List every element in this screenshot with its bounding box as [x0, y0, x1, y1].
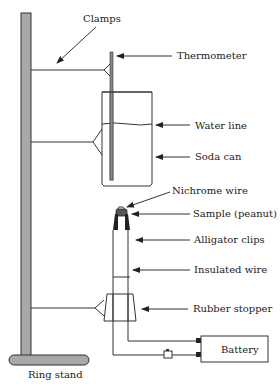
nichrome-wire-callout: Nichrome wire [127, 185, 248, 207]
thermometer-clamp [31, 64, 110, 76]
rubber-stopper-callout: Rubber stopper [142, 303, 273, 314]
water-line-label: Water line [195, 120, 247, 131]
alligator-clip-left [113, 214, 118, 230]
rubber-stopper [104, 294, 136, 321]
battery-label: Battery [221, 344, 259, 355]
insulated-wires [113, 230, 130, 355]
nichrome-wire-label: Nichrome wire [172, 185, 248, 196]
water-line [102, 123, 152, 125]
thermometer-label: Thermometer [177, 50, 247, 61]
battery-wiring [113, 338, 201, 358]
alligator-clips-label: Alligator clips [193, 234, 265, 245]
can-clamp [31, 129, 102, 155]
stopper-clamp [31, 300, 104, 316]
insulated-wire-label: Insulated wire [194, 264, 267, 275]
soda-can-label: Soda can [195, 151, 242, 162]
water-line-callout: Water line [156, 120, 247, 131]
battery-terminal-bottom [196, 352, 201, 357]
soda-can [102, 92, 152, 186]
sample-label: Sample (peanut) [193, 208, 277, 219]
battery: Battery [201, 336, 268, 362]
clamps-label: Clamps [83, 13, 121, 24]
calorimeter-diagram: Ring stand Clamps Thermometer Water line… [0, 0, 280, 385]
battery-terminal-top [196, 338, 201, 343]
insulated-wire-callout: Insulated wire [133, 264, 267, 275]
ring-stand-rod [21, 13, 31, 358]
alligator-clips-callout: Alligator clips [136, 234, 265, 245]
soda-can-callout: Soda can [156, 151, 242, 162]
peanut-assembly [113, 207, 130, 230]
rubber-stopper-label: Rubber stopper [193, 303, 273, 314]
ring-stand-label: Ring stand [28, 369, 83, 380]
switch [164, 351, 172, 358]
alligator-clip-right [125, 214, 130, 230]
ring-stand-base [9, 355, 89, 365]
sample-callout: Sample (peanut) [132, 208, 277, 219]
ring-stand: Ring stand [9, 13, 89, 380]
